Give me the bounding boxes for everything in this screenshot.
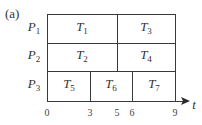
row-divider-1 xyxy=(47,43,175,44)
task-t2: T2 xyxy=(76,48,88,66)
processor-label-p1: P1 xyxy=(28,20,40,38)
right-border xyxy=(175,14,176,101)
axis-label-t: t xyxy=(192,98,196,111)
axis-arrow-icon xyxy=(181,96,191,106)
top-border xyxy=(47,14,175,15)
task-t6: T6 xyxy=(105,77,117,95)
tick-9: 9 xyxy=(173,108,178,118)
panel-label: (a) xyxy=(5,7,19,20)
tick-0: 0 xyxy=(45,108,50,118)
time-axis xyxy=(47,101,184,102)
tick-5: 5 xyxy=(115,108,120,118)
processor-label-p3: P3 xyxy=(28,77,40,95)
task-t4: T4 xyxy=(140,48,152,66)
divider-t3-row3 xyxy=(90,71,91,101)
left-border xyxy=(47,14,48,101)
tick-6: 6 xyxy=(130,108,135,118)
task-t5: T5 xyxy=(63,77,75,95)
tick-3: 3 xyxy=(88,108,93,118)
divider-t6-row3 xyxy=(132,71,133,101)
row-divider-2 xyxy=(47,71,175,72)
task-t3: T3 xyxy=(140,20,152,38)
processor-label-p2: P2 xyxy=(28,48,40,66)
task-t1: T1 xyxy=(76,20,88,38)
task-t7: T7 xyxy=(148,77,160,95)
divider-t5-rows12 xyxy=(117,14,118,71)
